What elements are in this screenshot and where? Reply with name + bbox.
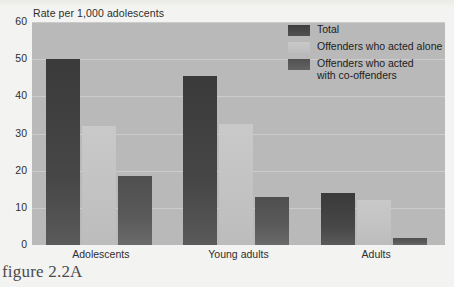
- legend-item: Offenders who acted alone: [288, 41, 454, 53]
- y-tick-label: 30: [0, 128, 27, 139]
- x-tick-label: Adolescents: [32, 248, 170, 260]
- bar: [321, 193, 355, 245]
- bar: [219, 124, 253, 245]
- bar: [118, 176, 152, 245]
- y-tick-label: 40: [0, 90, 27, 101]
- x-tick-label: Adults: [307, 248, 445, 260]
- legend-label: Offenders who actedwith co-offenders: [317, 58, 414, 81]
- chart-legend: TotalOffenders who acted aloneOffenders …: [288, 24, 454, 86]
- y-tick-label: 0: [0, 239, 27, 250]
- y-axis-title: Rate per 1,000 adolescents: [33, 7, 164, 19]
- legend-swatch: [288, 42, 310, 53]
- legend-item: Offenders who actedwith co-offenders: [288, 58, 454, 81]
- bar: [393, 238, 427, 245]
- bar-group: [170, 22, 308, 245]
- y-tick-label: 50: [0, 53, 27, 64]
- legend-label: Offenders who acted alone: [317, 41, 442, 53]
- y-tick-label: 10: [0, 202, 27, 213]
- bar: [357, 200, 391, 245]
- x-tick-label: Young adults: [170, 248, 308, 260]
- legend-swatch: [288, 25, 310, 36]
- figure-container: Rate per 1,000 adolescents 0102030405060…: [0, 0, 454, 287]
- legend-swatch: [288, 59, 310, 70]
- legend-item: Total: [288, 24, 454, 36]
- legend-label: Total: [317, 24, 339, 36]
- bar: [46, 59, 80, 245]
- bar: [255, 197, 289, 245]
- bar: [183, 76, 217, 245]
- bar: [82, 126, 116, 245]
- scan-edge-artifact: [0, 0, 454, 7]
- y-tick-label: 60: [0, 16, 27, 27]
- y-tick-label: 20: [0, 165, 27, 176]
- figure-caption: figure 2.2A: [2, 262, 83, 282]
- bar-group: [32, 22, 170, 245]
